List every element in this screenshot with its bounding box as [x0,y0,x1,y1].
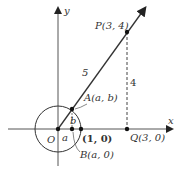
point-b [70,127,74,131]
a-length-label: a [62,132,68,143]
unit-point-label: (1, 0) [82,133,112,145]
point-p-label: P(3, 4) [94,20,129,31]
pointer-a [75,104,87,109]
y-axis-label: y [63,5,70,16]
point-b-label: B(a, 0) [79,149,114,160]
point-a [70,107,74,111]
x-axis-label: x [168,115,174,126]
point-origin [56,127,60,131]
hypotenuse-label: 5 [82,67,88,78]
point-unit [79,127,83,131]
point-a-label: A(a, b) [83,92,118,103]
point-q [125,127,129,131]
point-q-label: Q(3, 0) [130,132,165,143]
origin-label: O [47,134,55,145]
b-length-label: b [70,115,76,126]
unit-circle-diagram: y x O P(3, 4) Q(3, 0) A(a, b) B(a, 0) (1… [0,0,184,174]
vertical-length-label: 4 [130,77,136,88]
